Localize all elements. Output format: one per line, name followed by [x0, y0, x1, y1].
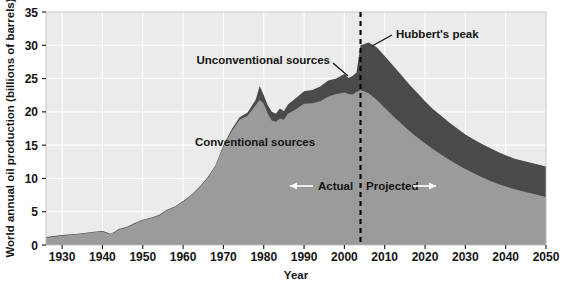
x-tick-label: 1940: [89, 250, 116, 264]
hubberts-peak-label: Hubbert's peak: [396, 28, 479, 40]
x-tick-label: 1950: [129, 250, 156, 264]
oil-production-chart-figure: 05101520253035 1930194019501960197019801…: [0, 0, 564, 286]
chart-canvas: 05101520253035 1930194019501960197019801…: [0, 0, 564, 286]
y-tick-label: 0: [31, 239, 38, 253]
x-tick-label: 2030: [452, 250, 479, 264]
actual-label: Actual: [318, 180, 353, 192]
y-axis-ticks: 05101520253035: [25, 6, 46, 253]
x-tick-label: 2040: [492, 250, 519, 264]
x-axis-ticks: 1930194019501960197019801990200020102020…: [49, 245, 560, 264]
projected-label: Projected: [366, 180, 418, 192]
y-axis-title: World annual oil production (billions of…: [4, 0, 16, 258]
y-tick-label: 20: [25, 105, 39, 119]
x-tick-label: 1970: [210, 250, 237, 264]
y-tick-label: 15: [25, 139, 39, 153]
conventional-sources-label: Conventional sources: [195, 136, 315, 148]
y-tick-label: 25: [25, 72, 39, 86]
x-tick-label: 1990: [291, 250, 318, 264]
x-tick-label: 1980: [250, 250, 277, 264]
y-tick-label: 35: [25, 6, 39, 20]
y-tick-label: 10: [25, 172, 39, 186]
x-tick-label: 2050: [533, 250, 560, 264]
x-tick-label: 2000: [331, 250, 358, 264]
x-tick-label: 1960: [170, 250, 197, 264]
x-tick-label: 1930: [49, 250, 76, 264]
y-tick-label: 30: [25, 39, 39, 53]
x-axis-title: Year: [284, 269, 309, 281]
unconventional-sources-label: Unconventional sources: [196, 54, 330, 66]
x-tick-label: 2010: [371, 250, 398, 264]
x-tick-label: 2020: [412, 250, 439, 264]
y-tick-label: 5: [31, 205, 38, 219]
